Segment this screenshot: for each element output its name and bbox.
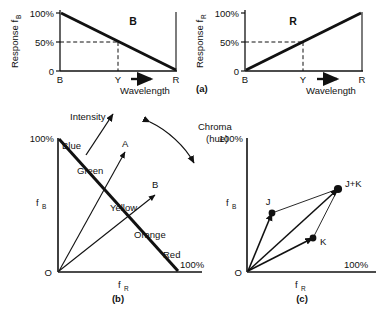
point-marker-j xyxy=(269,210,276,217)
origin-tick-label: O xyxy=(235,267,242,278)
ytick-100-label: 100% xyxy=(30,8,55,19)
color-label-green: Green xyxy=(77,165,103,176)
y-axis-title-group: Response f B xyxy=(9,15,22,68)
panel-c-chart: J K J+K 100% O 100% f B f R xyxy=(219,133,376,292)
ytick-50-label: 50% xyxy=(35,37,55,48)
y-axis-title-sub: B xyxy=(15,15,22,19)
xtick-b-label: B xyxy=(242,74,248,85)
edge-j-to-jk xyxy=(272,189,338,213)
y-axis-title-sub: R xyxy=(200,14,207,19)
origin-tick-label: O xyxy=(45,267,52,278)
xtick-r-label: R xyxy=(173,74,180,85)
x-axis-title-sub: R xyxy=(124,285,129,292)
point-marker-jk xyxy=(334,185,342,193)
chroma-curved-arrow xyxy=(150,122,194,163)
color-label-blue: Blue xyxy=(62,140,81,151)
panel-b-chart: Intensity Chroma (hue) Blue Green Yellow… xyxy=(30,111,233,292)
xtick-r-label: R xyxy=(359,74,366,85)
x-axis-title: f xyxy=(118,279,121,290)
y-axis-title-group: f B xyxy=(226,197,236,210)
y-axis-title-sub: B xyxy=(232,203,236,210)
x-axis-title-group: f R xyxy=(295,279,306,292)
point-label-jk: J+K xyxy=(345,178,362,189)
y-axis-title-sub: B xyxy=(42,203,46,210)
y-top-tick-label: 100% xyxy=(219,133,244,144)
point-marker-k xyxy=(310,235,317,242)
ytick-0-label: 0 xyxy=(234,66,239,77)
x-axis-title-sub: R xyxy=(301,285,306,292)
color-label-orange: Orange xyxy=(134,229,166,240)
vector-o-to-k xyxy=(248,238,313,271)
panel-a-caption: (a) xyxy=(196,83,208,94)
response-curve-r xyxy=(246,13,361,70)
point-label-k: K xyxy=(320,236,327,247)
ytick-0-label: 0 xyxy=(49,66,54,77)
ytick-100-label: 100% xyxy=(215,8,240,19)
panel-name-b: B xyxy=(129,15,137,27)
y-axis-title: f xyxy=(226,197,229,208)
x-axis-title-group: f R xyxy=(118,279,129,292)
y-axis-title: f xyxy=(36,197,39,208)
x-end-tick-label: 100% xyxy=(180,259,205,270)
color-label-yellow: Yellow xyxy=(110,202,137,213)
x-axis-title: Wavelength xyxy=(306,85,356,96)
intensity-label: Intensity xyxy=(70,111,106,122)
response-curve-b xyxy=(61,13,176,70)
x-axis-title: Wavelength xyxy=(120,85,170,96)
panel-name-r: R xyxy=(289,15,297,27)
y-top-tick-label: 100% xyxy=(30,133,55,144)
vector-a-label: A xyxy=(122,138,129,149)
y-axis-title: Response f xyxy=(9,20,20,68)
panel-b-caption: (b) xyxy=(112,293,124,304)
x-end-tick-label: 100% xyxy=(344,259,369,270)
vector-o-to-j xyxy=(248,213,272,271)
y-axis-title-group: f B xyxy=(36,197,46,210)
vector-o-to-jk xyxy=(248,189,338,271)
chroma-label-line1: Chroma xyxy=(198,121,233,132)
vector-b-label: B xyxy=(152,179,158,190)
xtick-b-label: B xyxy=(57,74,63,85)
xtick-y-label: Y xyxy=(300,74,307,85)
color-label-red: Red xyxy=(163,249,180,260)
ytick-50-label: 50% xyxy=(220,37,240,48)
y-axis-title: Response f xyxy=(194,20,205,68)
panel-a-left-chart: 100% 50% 0 B Y R Wavelength Response f B… xyxy=(9,8,180,97)
panel-c-caption: (c) xyxy=(296,293,308,304)
xtick-y-label: Y xyxy=(115,74,122,85)
y-axis-title-group: Response f R xyxy=(194,14,207,68)
point-label-j: J xyxy=(266,196,271,207)
figure-root: 100% 50% 0 B Y R Wavelength Response f B… xyxy=(0,0,386,310)
x-axis-title: f xyxy=(295,279,298,290)
figure-svg: 100% 50% 0 B Y R Wavelength Response f B… xyxy=(0,0,386,310)
panel-a-right-chart: 100% 50% 0 B Y R Wavelength Response f R… xyxy=(194,8,366,97)
